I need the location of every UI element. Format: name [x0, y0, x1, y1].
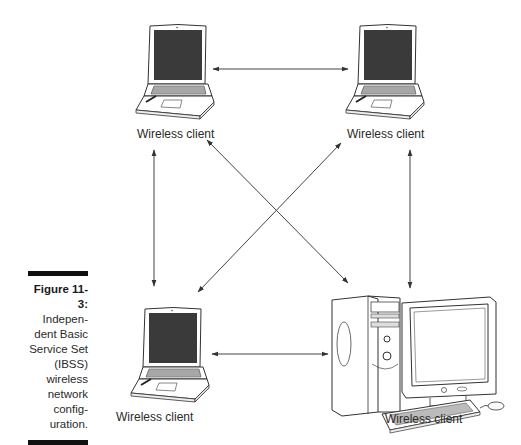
caption-line: Indepen- [28, 312, 88, 327]
node-label-bottom-right: Wireless client [385, 412, 462, 426]
caption-line: uration. [28, 417, 88, 432]
connection-arrow [198, 143, 341, 292]
caption-line: (IBSS) [28, 357, 88, 372]
node-label-top-left: Wireless client [137, 127, 214, 141]
laptop-icon [136, 25, 214, 120]
connection-arrow [207, 140, 348, 283]
figure-number: Figure 11-3: [28, 282, 88, 312]
laptop-icon [346, 25, 424, 120]
node-label-bottom-left: Wireless client [116, 410, 193, 424]
figure-caption: Figure 11-3: Indepen- dent Basic Service… [28, 271, 88, 445]
caption-bottom-rule [28, 440, 88, 445]
caption-line: dent Basic [28, 327, 88, 342]
caption-line: config- [28, 402, 88, 417]
laptop-icon [131, 308, 209, 403]
caption-line: wireless [28, 372, 88, 387]
node-label-top-right: Wireless client [347, 127, 424, 141]
caption-top-rule [28, 271, 88, 276]
caption-line: Service Set [28, 342, 88, 357]
caption-line: network [28, 387, 88, 402]
